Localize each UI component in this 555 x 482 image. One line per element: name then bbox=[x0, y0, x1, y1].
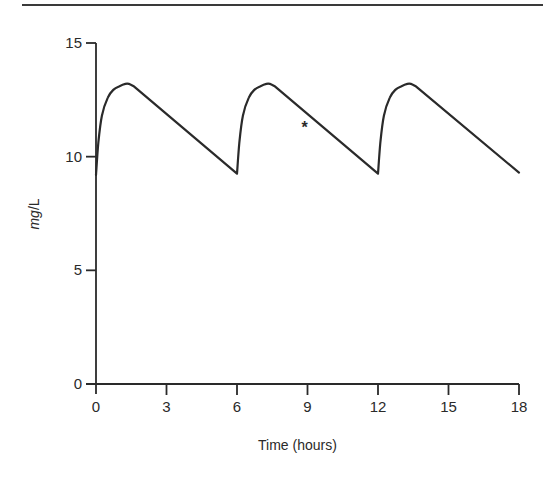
x-tick-label: 0 bbox=[92, 398, 100, 415]
x-tick-label: 15 bbox=[440, 398, 457, 415]
y-axis-title: mg/L bbox=[22, 202, 46, 226]
y-tick-label: 10 bbox=[65, 148, 82, 165]
x-axis-title: Time (hours) bbox=[258, 437, 337, 453]
y-axis-title-num: mg bbox=[26, 210, 42, 229]
y-axis-title-sep: / bbox=[26, 206, 42, 210]
x-tick-label: 12 bbox=[370, 398, 387, 415]
line-chart: 0510150369121518 bbox=[0, 0, 555, 482]
x-tick-label: 18 bbox=[511, 398, 528, 415]
axes bbox=[86, 43, 519, 394]
y-tick-label: 5 bbox=[74, 261, 82, 278]
x-tick-label: 3 bbox=[162, 398, 170, 415]
axis-tick-labels: 0510150369121518 bbox=[65, 34, 527, 415]
x-tick-label: 9 bbox=[303, 398, 311, 415]
y-axis-title-den: L bbox=[26, 198, 42, 206]
axis-ticks bbox=[86, 43, 519, 395]
x-tick-label: 6 bbox=[233, 398, 241, 415]
asterisk-annotation: * bbox=[302, 119, 308, 137]
y-tick-label: 0 bbox=[74, 375, 82, 392]
y-tick-label: 15 bbox=[65, 34, 82, 51]
